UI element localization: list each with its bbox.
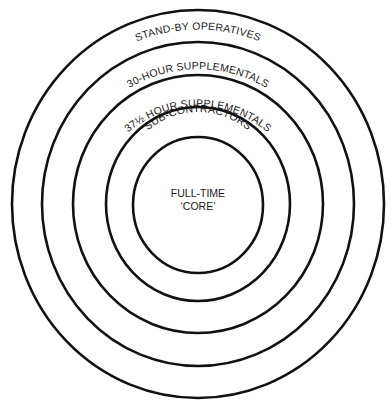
core-label-line1: FULL-TIME (171, 187, 225, 199)
concentric-diagram: STAND-BY OPERATIVES 30-HOUR SUPPLEMENTAL… (0, 0, 392, 406)
label-stand-by-operatives: STAND-BY OPERATIVES (133, 20, 263, 44)
core-label-line2: ‘CORE’ (180, 200, 215, 212)
